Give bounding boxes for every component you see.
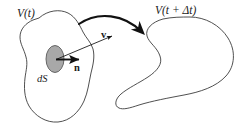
label-volume-final: V(t + Δt) (155, 5, 196, 17)
diagram-canvas (0, 0, 244, 132)
material-volume-final (116, 17, 234, 109)
transport-curved-arrow (79, 16, 142, 32)
label-velocity-vector: v (101, 30, 106, 41)
label-normal-vector: n (74, 63, 80, 74)
figure-container: V(t) V(t + Δt) dS n v (0, 0, 244, 132)
label-surface-element: dS (37, 74, 48, 85)
label-volume-initial: V(t) (17, 8, 35, 20)
